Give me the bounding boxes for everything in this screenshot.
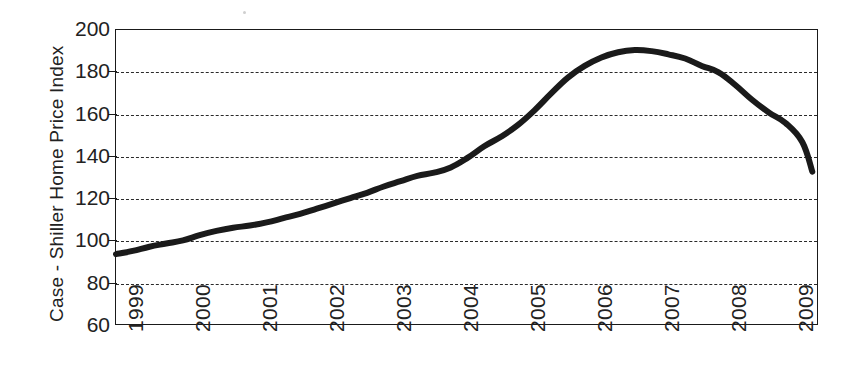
x-tick-label: 2006 (593, 284, 617, 332)
y-tick-mark (108, 240, 117, 241)
x-tick-label: 2007 (660, 284, 684, 332)
y-tick-mark (108, 71, 117, 72)
x-tick-label: 2004 (459, 284, 483, 332)
x-tick-label: 2005 (526, 284, 550, 332)
scan-artifact (243, 11, 246, 14)
y-tick-mark (108, 114, 117, 115)
x-tick-label: 2009 (794, 284, 818, 332)
chart-figure: Case - Shiller Home Price Index 20018016… (0, 0, 859, 390)
x-tick-label: 2002 (325, 284, 349, 332)
x-axis-ticks: 1999200020012002200320042005200620072008… (0, 0, 859, 390)
y-tick-mark (108, 156, 117, 157)
x-tick-label: 2000 (191, 284, 215, 332)
y-tick-mark (108, 283, 117, 284)
x-tick-label: 2008 (727, 284, 751, 332)
y-tick-mark (108, 198, 117, 199)
x-tick-label: 1999 (124, 284, 148, 332)
x-tick-label: 2003 (392, 284, 416, 332)
x-tick-label: 2001 (258, 284, 282, 332)
